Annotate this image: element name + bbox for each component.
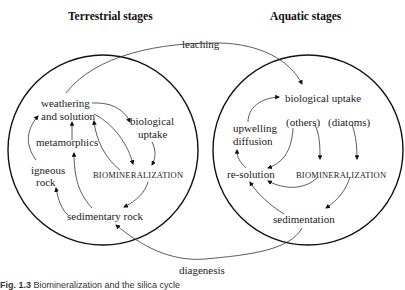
node-sedimentary-rock: sedimentary rock (67, 210, 143, 222)
node-re-solution: re-solution (227, 168, 275, 180)
leaching-label: leaching (182, 38, 219, 50)
node-upwelling-line1: upwelling (233, 122, 277, 134)
arrow-biomin-to-sedrock (124, 182, 148, 207)
node-igneous-line1: igneous (31, 164, 65, 176)
diagenesis-label: diagenesis (179, 264, 225, 276)
arrow-resolution-to-upwelling (237, 150, 246, 168)
figure-caption-text: Biomineralization and the silica cycle (34, 280, 181, 290)
arrow-others-to-resolution (268, 128, 293, 168)
arrow-diatoms-to-biomin (352, 125, 357, 159)
node-metamorphics: metamorphics (36, 136, 98, 148)
node-diatoms: (diatoms) (328, 116, 370, 128)
node-weathering-line2: and solution (41, 110, 95, 122)
node-sedimentation: sedimentation (273, 213, 335, 225)
node-others: (others) (286, 116, 320, 128)
node-aquatic-biouptake: biological uptake (285, 92, 361, 104)
node-aquatic-biomineralization: BIOMINERALIZATION (296, 169, 386, 181)
diagenesis-arrow (116, 225, 302, 259)
figure-caption-label: Fig. 1.3 (0, 280, 31, 290)
arrow-others-to-biomin (315, 125, 320, 159)
arrow-biomin-to-sedimentation (326, 177, 350, 208)
arrow-weathering-to-biouptake (92, 103, 130, 122)
arrow-weathering-to-biomin (94, 114, 133, 164)
arrow-biouptake-to-biomin (152, 142, 155, 165)
terrestrial-stages-header: Terrestrial stages (68, 10, 153, 22)
node-igneous-line2: rock (36, 176, 56, 188)
node-weathering-line1: weathering (41, 97, 90, 109)
leaching-arrow (66, 43, 302, 93)
arrow-sedrock-to-metamorphics (74, 153, 92, 208)
arrow-sedimentation-to-resolution (250, 182, 284, 214)
aquatic-stages-header: Aquatic stages (270, 10, 341, 22)
figure-caption: Fig. 1.3 Biomineralization and the silic… (0, 280, 180, 290)
node-terrestrial-biouptake-line2: uptake (138, 128, 167, 140)
arrow-upwelling-to-biouptake (248, 97, 279, 122)
node-upwelling-line2: diffusion (233, 135, 273, 147)
node-terrestrial-biomineralization: BIOMINERALIZATION (93, 169, 183, 181)
node-terrestrial-biouptake-line1: biological (130, 115, 174, 127)
